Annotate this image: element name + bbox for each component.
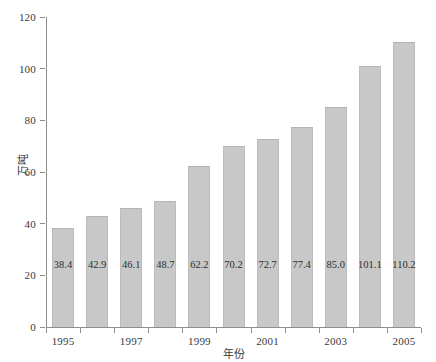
bar: [52, 228, 74, 327]
x-tick-mark: [285, 328, 286, 333]
bar-value-label: 62.2: [182, 258, 216, 271]
bar-value-label: 101.1: [353, 258, 387, 271]
bar-chart: 万吨 年份 020406080100120 199519971999200120…: [0, 0, 436, 362]
x-tick-mark: [182, 328, 183, 333]
x-tick-mark: [319, 328, 320, 333]
bar-value-label: 48.7: [148, 258, 182, 271]
y-tick-mark: [40, 17, 45, 18]
x-tick-mark: [114, 328, 115, 333]
bar: [393, 42, 415, 327]
plot-area: 38.442.946.148.762.270.272.777.485.0101.…: [46, 17, 421, 327]
bar: [223, 146, 245, 327]
y-tick-mark: [40, 223, 45, 224]
x-tick-mark: [148, 328, 149, 333]
bar-value-label: 72.7: [251, 258, 285, 271]
x-tick-mark: [46, 328, 47, 333]
y-tick-mark: [40, 120, 45, 121]
x-tick-mark: [353, 328, 354, 333]
bar-value-label: 110.2: [387, 258, 421, 271]
y-tick-mark: [40, 275, 45, 276]
y-tick-label: 0: [0, 319, 36, 335]
x-tick-mark: [251, 328, 252, 333]
x-tick-label: 1997: [108, 334, 154, 348]
y-tick-label: 40: [0, 216, 36, 232]
x-axis-line: [46, 327, 421, 328]
x-tick-mark: [387, 328, 388, 333]
bar-value-label: 70.2: [217, 258, 251, 271]
bar-value-label: 42.9: [80, 258, 114, 271]
y-tick-label: 20: [0, 267, 36, 283]
bar-value-label: 77.4: [285, 258, 319, 271]
x-axis-title: 年份: [46, 348, 421, 361]
y-tick-mark: [40, 327, 45, 328]
bar: [86, 216, 108, 327]
x-tick-label: 1999: [176, 334, 222, 348]
x-tick-label: 1995: [40, 334, 86, 348]
x-tick-label: 2001: [245, 334, 291, 348]
bar: [291, 127, 313, 327]
bar: [359, 66, 381, 327]
y-tick-mark: [40, 172, 45, 173]
x-tick-mark: [216, 328, 217, 333]
x-tick-mark: [421, 328, 422, 333]
x-tick-mark: [80, 328, 81, 333]
x-tick-label: 2003: [313, 334, 359, 348]
x-tick-label: 2005: [381, 334, 427, 348]
y-tick-label: 100: [0, 61, 36, 77]
y-tick-label: 120: [0, 9, 36, 25]
bar-value-label: 85.0: [319, 258, 353, 271]
bar-value-label: 46.1: [114, 258, 148, 271]
y-tick-label: 80: [0, 112, 36, 128]
bar-value-label: 38.4: [46, 258, 80, 271]
y-tick-mark: [40, 68, 45, 69]
bar: [257, 139, 279, 327]
y-tick-label: 60: [0, 164, 36, 180]
bar: [188, 166, 210, 327]
bar: [325, 107, 347, 327]
